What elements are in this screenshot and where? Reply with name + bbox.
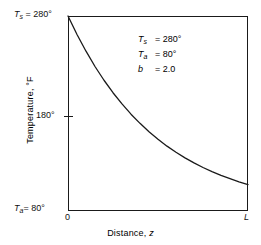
annotation-ta-value: = 80° xyxy=(155,48,176,61)
y-axis-tick-180 xyxy=(64,116,73,117)
y-top-subscript: s xyxy=(20,13,24,20)
y-top-value: = 280° xyxy=(26,9,52,19)
annotation-row-b: b= 2.0 xyxy=(138,63,181,78)
x-axis-tick-label-left: 0 xyxy=(65,213,70,222)
figure-container: Ts = 280° 180° Ta= 80° 0 L Distance, z T… xyxy=(0,0,261,245)
y-axis-title: Temperature, °F xyxy=(25,30,35,190)
annotation-b-symbol: b xyxy=(138,63,155,78)
x-axis-tick-label-right: L xyxy=(244,213,249,222)
annotation-row-ta: Ta= 80° xyxy=(138,48,181,63)
annotation-row-ts: Ts= 280° xyxy=(138,33,181,48)
y-bottom-value: = 80° xyxy=(23,203,44,213)
x-axis-title: Distance, z xyxy=(0,228,261,238)
parameter-annotation-block: Ts= 280° Ta= 80° b= 2.0 xyxy=(138,33,181,78)
annotation-ts-symbol: Ts xyxy=(138,33,155,48)
y-axis-label-mid: 180° xyxy=(36,111,55,120)
annotation-b-value: = 2.0 xyxy=(155,63,175,76)
y-axis-label-top: Ts = 280° xyxy=(14,10,52,20)
annotation-ta-symbol: Ta xyxy=(138,48,155,63)
x-axis-title-text: Distance, xyxy=(107,228,149,238)
y-axis-label-bottom: Ta= 80° xyxy=(14,204,45,214)
annotation-ts-value: = 280° xyxy=(155,33,181,46)
x-axis-title-variable: z xyxy=(149,228,154,238)
